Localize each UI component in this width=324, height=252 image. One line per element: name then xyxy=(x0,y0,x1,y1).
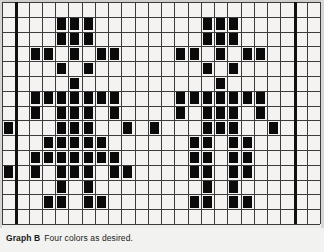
chart-cell-filled[interactable] xyxy=(44,48,53,59)
chart-cell-filled[interactable] xyxy=(243,196,252,207)
chart-cell-filled[interactable] xyxy=(97,152,106,163)
chart-cell-filled[interactable] xyxy=(203,92,212,103)
chart-cell-filled[interactable] xyxy=(190,152,199,163)
chart-cell-filled[interactable] xyxy=(84,63,93,74)
chart-cell-filled[interactable] xyxy=(229,196,238,207)
chart-cell-filled[interactable] xyxy=(216,33,225,44)
chart-cell-filled[interactable] xyxy=(57,63,66,74)
chart-cell-filled[interactable] xyxy=(84,107,93,118)
chart-cell-filled[interactable] xyxy=(243,152,252,163)
chart-cell-filled[interactable] xyxy=(4,122,13,133)
chart-cell-filled[interactable] xyxy=(110,107,119,118)
chart-cell-filled[interactable] xyxy=(203,181,212,192)
chart-cell-filled[interactable] xyxy=(216,122,225,133)
chart-cell-filled[interactable] xyxy=(256,92,265,103)
chart-cell-filled[interactable] xyxy=(70,122,79,133)
chart-cell-filled[interactable] xyxy=(84,137,93,148)
chart-cell-filled[interactable] xyxy=(229,152,238,163)
chart-cell-filled[interactable] xyxy=(216,107,225,118)
chart-cell-filled[interactable] xyxy=(84,92,93,103)
chart-cell-filled[interactable] xyxy=(84,166,93,177)
chart-cell-filled[interactable] xyxy=(203,18,212,29)
chart-cell-filled[interactable] xyxy=(57,18,66,29)
chart-cell-filled[interactable] xyxy=(229,181,238,192)
chart-cell-filled[interactable] xyxy=(216,92,225,103)
chart-cell-filled[interactable] xyxy=(110,166,119,177)
chart-cell-filled[interactable] xyxy=(203,33,212,44)
chart-cell-filled[interactable] xyxy=(84,196,93,207)
chart-cell-filled[interactable] xyxy=(70,152,79,163)
chart-cell-filled[interactable] xyxy=(84,122,93,133)
chart-cell-filled[interactable] xyxy=(256,48,265,59)
chart-cell-filled[interactable] xyxy=(216,48,225,59)
chart-cell-filled[interactable] xyxy=(229,122,238,133)
chart-cell-filled[interactable] xyxy=(97,137,106,148)
chart-cell-filled[interactable] xyxy=(203,137,212,148)
chart-cell-filled[interactable] xyxy=(44,152,53,163)
chart-cell-filled[interactable] xyxy=(31,166,40,177)
chart-cell-filled[interactable] xyxy=(70,137,79,148)
chart-cell-filled[interactable] xyxy=(70,107,79,118)
chart-cell-filled[interactable] xyxy=(31,48,40,59)
chart-cell-filled[interactable] xyxy=(110,48,119,59)
chart-cell-filled[interactable] xyxy=(4,166,13,177)
chart-cell-filled[interactable] xyxy=(229,166,238,177)
chart-cell-filled[interactable] xyxy=(243,137,252,148)
chart-cell-filled[interactable] xyxy=(70,92,79,103)
chart-cell-filled[interactable] xyxy=(229,92,238,103)
chart-cell-filled[interactable] xyxy=(84,152,93,163)
chart-cell-filled[interactable] xyxy=(176,48,185,59)
chart-cell-filled[interactable] xyxy=(176,107,185,118)
chart-cell-filled[interactable] xyxy=(44,92,53,103)
chart-cell-filled[interactable] xyxy=(203,63,212,74)
chart-grid[interactable] xyxy=(2,2,320,224)
chart-cell-filled[interactable] xyxy=(31,152,40,163)
chart-cell-filled[interactable] xyxy=(269,122,278,133)
chart-cell-filled[interactable] xyxy=(190,92,199,103)
chart-cell-filled[interactable] xyxy=(229,63,238,74)
chart-cell-filled[interactable] xyxy=(70,18,79,29)
chart-cell-filled[interactable] xyxy=(70,78,79,89)
chart-cell-filled[interactable] xyxy=(203,196,212,207)
chart-cell-filled[interactable] xyxy=(70,166,79,177)
chart-cell-filled[interactable] xyxy=(150,122,159,133)
chart-cell-filled[interactable] xyxy=(57,196,66,207)
chart-cell-filled[interactable] xyxy=(203,122,212,133)
chart-cell-filled[interactable] xyxy=(97,92,106,103)
chart-cell-filled[interactable] xyxy=(110,92,119,103)
chart-cell-filled[interactable] xyxy=(57,166,66,177)
chart-cell-filled[interactable] xyxy=(190,166,199,177)
chart-cell-filled[interactable] xyxy=(203,166,212,177)
chart-cell-filled[interactable] xyxy=(123,122,132,133)
chart-cell-filled[interactable] xyxy=(44,137,53,148)
chart-cell-filled[interactable] xyxy=(57,181,66,192)
chart-cell-filled[interactable] xyxy=(176,92,185,103)
chart-cell-filled[interactable] xyxy=(216,18,225,29)
chart-cell-filled[interactable] xyxy=(57,137,66,148)
chart-cell-filled[interactable] xyxy=(243,48,252,59)
chart-cell-filled[interactable] xyxy=(57,33,66,44)
chart-cell-filled[interactable] xyxy=(256,107,265,118)
chart-cell-filled[interactable] xyxy=(229,137,238,148)
chart-cell-filled[interactable] xyxy=(70,48,79,59)
chart-cell-filled[interactable] xyxy=(190,48,199,59)
chart-cell-filled[interactable] xyxy=(44,196,53,207)
chart-cell-filled[interactable] xyxy=(123,166,132,177)
chart-cell-filled[interactable] xyxy=(229,18,238,29)
chart-cell-filled[interactable] xyxy=(57,122,66,133)
chart-cell-filled[interactable] xyxy=(31,92,40,103)
chart-cell-filled[interactable] xyxy=(216,78,225,89)
chart-cell-filled[interactable] xyxy=(57,152,66,163)
chart-cell-filled[interactable] xyxy=(84,33,93,44)
chart-cell-filled[interactable] xyxy=(57,92,66,103)
chart-cell-filled[interactable] xyxy=(203,152,212,163)
chart-cell-filled[interactable] xyxy=(243,92,252,103)
chart-cell-filled[interactable] xyxy=(84,181,93,192)
chart-cell-filled[interactable] xyxy=(97,48,106,59)
chart-cell-filled[interactable] xyxy=(190,196,199,207)
chart-cell-filled[interactable] xyxy=(229,33,238,44)
chart-cell-filled[interactable] xyxy=(229,107,238,118)
chart-cell-filled[interactable] xyxy=(110,152,119,163)
chart-cell-filled[interactable] xyxy=(70,33,79,44)
chart-cell-filled[interactable] xyxy=(243,166,252,177)
